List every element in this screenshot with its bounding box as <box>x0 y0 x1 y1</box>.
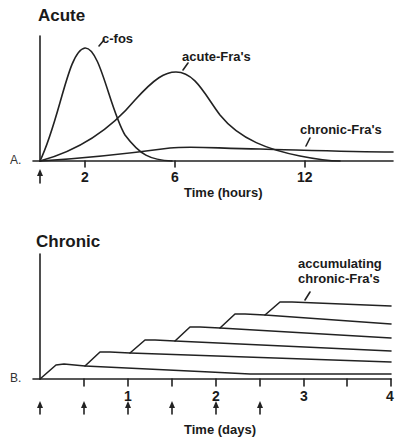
curve-accumulating-step <box>40 302 391 379</box>
chronic-x-axis-title: Time (days) <box>184 422 256 437</box>
chronic-tick-label-2: 2 <box>212 388 220 404</box>
figure-canvas <box>0 0 405 445</box>
panel-label-b: B. <box>10 371 21 385</box>
chronic-tick-label-1: 1 <box>124 388 132 404</box>
label-chronic-fras: chronic-Fra's <box>300 122 382 137</box>
stimulus-arrowheads <box>37 169 263 408</box>
acute-tick-label-6: 6 <box>171 169 179 185</box>
acute-x-axis-title: Time (hours) <box>184 185 263 200</box>
label-c-fos: c-fos <box>102 31 133 46</box>
acute-title: Acute <box>38 6 85 26</box>
curve-c-fos <box>40 48 172 161</box>
acute-tick-label-2: 2 <box>81 169 89 185</box>
label-acute-fras: acute-Fra's <box>182 49 251 64</box>
panel-label-a: A. <box>10 153 21 167</box>
acute-tick-label-12: 12 <box>297 169 313 185</box>
chronic-title: Chronic <box>36 232 100 252</box>
chronic-tick-label-4: 4 <box>386 388 394 404</box>
label-accumulating: accumulating chronic-Fra's <box>298 256 382 286</box>
curve-chronic-fras <box>40 147 393 161</box>
chronic-tick-label-3: 3 <box>300 388 308 404</box>
